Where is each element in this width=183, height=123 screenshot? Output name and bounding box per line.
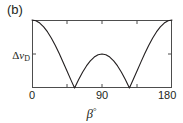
x-axis-label: β° <box>0 103 183 122</box>
y-axis-label: ΔνD <box>2 49 30 65</box>
y-axis-label-subscript: D <box>24 54 30 63</box>
x-axis-label-degree: ° <box>93 106 97 116</box>
x-tick-label-90: 90 <box>92 89 112 102</box>
panel-label: (b) <box>7 2 23 17</box>
x-tick-label-0: 0 <box>22 89 42 102</box>
plot-area <box>32 20 172 88</box>
data-curve <box>32 20 172 88</box>
figure-panel-b: (b) ΔνD 0 90 180 β° <box>0 0 183 123</box>
x-tick-label-180: 180 <box>158 89 182 102</box>
